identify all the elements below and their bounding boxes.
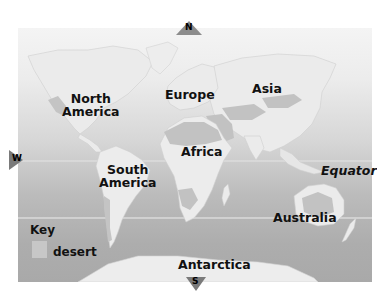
desert-key-label: desert xyxy=(53,245,97,259)
south-america-label: South America xyxy=(99,163,156,189)
compass-south: S xyxy=(186,276,206,294)
australia-label: Australia xyxy=(273,211,337,224)
desert-swatch xyxy=(32,241,47,258)
madagascar-land xyxy=(222,184,230,206)
north-america-label-line2: America xyxy=(62,105,119,118)
north-letter: N xyxy=(185,22,193,32)
new-zealand-land xyxy=(342,218,356,242)
compass-west: W xyxy=(9,150,23,174)
greenland-land xyxy=(146,42,178,74)
antarctica-label: Antarctica xyxy=(178,258,251,271)
north-america-land xyxy=(28,46,153,134)
asia-label: Asia xyxy=(252,82,282,95)
equator-label: Equator xyxy=(321,164,377,177)
west-letter: W xyxy=(12,153,22,163)
africa-label: Africa xyxy=(181,145,222,158)
north-america-label: North America xyxy=(62,92,119,118)
south-letter: S xyxy=(192,276,198,286)
compass-north: N xyxy=(176,20,202,39)
europe-label: Europe xyxy=(165,88,215,101)
india-land xyxy=(244,136,264,160)
key-title: Key xyxy=(30,223,55,237)
south-america-label-line2: America xyxy=(99,176,156,189)
central-america-land xyxy=(78,134,102,152)
